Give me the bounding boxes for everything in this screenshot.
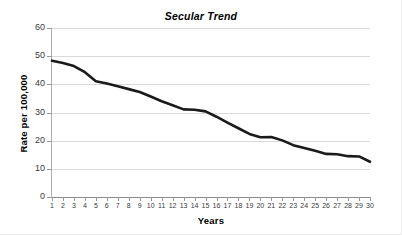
x-tick-mark <box>184 197 185 201</box>
y-tick-label: 0 <box>5 191 45 201</box>
x-tick-label: 30 <box>362 202 378 209</box>
x-tick-mark <box>173 197 174 201</box>
x-tick-mark <box>370 197 371 201</box>
x-tick-mark <box>260 197 261 201</box>
y-tick-label: 40 <box>5 78 45 88</box>
x-axis-line <box>52 197 371 198</box>
y-tick-mark <box>47 169 52 170</box>
y-tick-mark <box>47 28 52 29</box>
x-tick-mark <box>85 197 86 201</box>
y-tick-label: 60 <box>5 22 45 32</box>
x-tick-mark <box>129 197 130 201</box>
x-axis-label: Years <box>52 215 370 226</box>
x-tick-mark <box>348 197 349 201</box>
x-tick-mark <box>140 197 141 201</box>
y-tick-label: 10 <box>5 163 45 173</box>
x-tick-mark <box>359 197 360 201</box>
x-tick-mark <box>151 197 152 201</box>
x-tick-mark <box>326 197 327 201</box>
x-tick-mark <box>238 197 239 201</box>
x-tick-mark <box>206 197 207 201</box>
x-tick-mark <box>217 197 218 201</box>
x-tick-mark <box>227 197 228 201</box>
x-tick-mark <box>96 197 97 201</box>
x-tick-mark <box>293 197 294 201</box>
y-tick-label: 20 <box>5 135 45 145</box>
x-tick-mark <box>52 197 53 201</box>
x-tick-mark <box>282 197 283 201</box>
y-tick-mark <box>47 84 52 85</box>
x-tick-mark <box>118 197 119 201</box>
x-tick-mark <box>107 197 108 201</box>
y-tick-label: 30 <box>5 107 45 117</box>
x-tick-mark <box>304 197 305 201</box>
y-tick-label: 50 <box>5 50 45 60</box>
x-tick-mark <box>162 197 163 201</box>
x-tick-mark <box>271 197 272 201</box>
data-series-line <box>52 28 370 197</box>
x-tick-mark <box>249 197 250 201</box>
x-tick-mark <box>315 197 316 201</box>
x-tick-mark <box>63 197 64 201</box>
chart-title: Secular Trend <box>0 10 402 22</box>
x-tick-mark <box>195 197 196 201</box>
x-tick-mark <box>74 197 75 201</box>
y-tick-mark <box>47 141 52 142</box>
y-tick-mark <box>47 113 52 114</box>
x-tick-mark <box>337 197 338 201</box>
chart-figure: Secular Trend Rate per 100,000 Years 010… <box>0 0 402 235</box>
y-tick-mark <box>47 56 52 57</box>
